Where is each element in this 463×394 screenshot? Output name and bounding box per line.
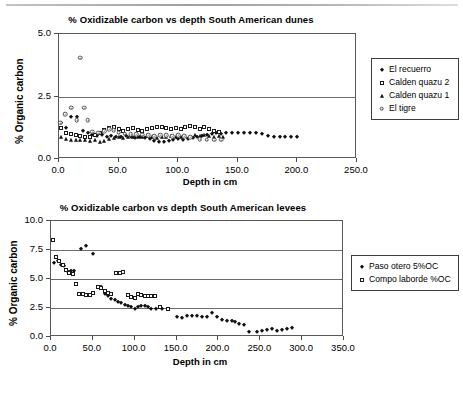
- data-point-calden-quazu-1: [59, 135, 63, 139]
- data-point-calden-quazu-2: [145, 127, 149, 131]
- data-point-paso-otero-5-oc: [184, 313, 189, 318]
- x-axis-tick-label: 250.0: [239, 342, 279, 353]
- legend-item-label: Calden quazu 1: [389, 90, 449, 101]
- data-point-calden-quazu-2: [198, 127, 202, 131]
- data-point-el-recuerro: [235, 130, 240, 135]
- legend-item-label: Compo laborde %OC: [369, 274, 451, 285]
- x-axis-tick: [259, 336, 260, 340]
- y-axis-tick-label: 7.5: [9, 243, 43, 254]
- data-point-calden-quazu-2: [155, 125, 159, 129]
- data-point-el-tigre: [63, 112, 68, 117]
- data-point-calden-quazu-2: [64, 131, 68, 135]
- data-point-el-recuerro: [253, 130, 258, 135]
- data-point-calden-quazu-1: [93, 138, 97, 142]
- data-point-paso-otero-5-oc: [246, 329, 251, 334]
- chart-dunes-plot-area: [58, 33, 356, 158]
- legend-item-label: El recuerro: [389, 64, 431, 75]
- legend-item-el-tigre[interactable]: El tigre: [377, 102, 453, 115]
- y-axis-tick: [46, 307, 50, 308]
- x-axis-tick: [50, 336, 51, 340]
- data-point-el-tigre: [78, 55, 83, 60]
- data-point-paso-otero-5-oc: [290, 326, 295, 331]
- chart-levees: % Oxidizable carbon vs depth South Ameri…: [0, 198, 463, 394]
- data-point-el-recuerro: [247, 130, 252, 135]
- data-point-calden-quazu-1: [88, 139, 92, 143]
- chart-dunes-y-axis-label: % Organic carbon: [14, 58, 25, 144]
- data-point-calden-quazu-1: [102, 139, 106, 143]
- data-point-el-tigre: [90, 129, 95, 134]
- y-axis-tick-label: 10.0: [9, 214, 43, 225]
- x-axis-tick-label: 150.0: [156, 342, 196, 353]
- square-marker-icon: [377, 77, 386, 88]
- data-point-marker: [379, 106, 384, 111]
- legend-item-el-recuerro[interactable]: El recuerro: [377, 63, 453, 76]
- data-point-el-tigre: [75, 118, 80, 123]
- data-point-paso-otero-5-oc: [214, 315, 219, 320]
- data-point-compo-laborde-oc: [71, 272, 75, 276]
- data-point-calden-quazu-2: [131, 126, 135, 130]
- data-point-el-tigre: [219, 137, 224, 142]
- gridline-horizontal: [51, 250, 342, 251]
- data-point-paso-otero-5-oc: [194, 313, 199, 318]
- data-point-compo-laborde-oc: [61, 263, 65, 267]
- data-point-el-tigre: [128, 132, 133, 137]
- x-axis-tick-label: 0.0: [30, 342, 70, 353]
- data-point-paso-otero-5-oc: [224, 318, 229, 323]
- data-point-el-tigre: [158, 133, 163, 138]
- data-point-el-tigre: [182, 134, 187, 139]
- data-point-calden-quazu-2: [150, 126, 154, 130]
- legend-item-calden-quazu-2[interactable]: Calden quazu 2: [377, 76, 453, 89]
- triangle-marker-icon: [377, 90, 386, 101]
- x-axis-tick-label: 0.0: [38, 164, 78, 175]
- data-point-el-recuerro: [289, 135, 294, 140]
- data-point-compo-laborde-oc: [166, 307, 170, 311]
- data-point-paso-otero-5-oc: [174, 314, 179, 319]
- legend-item-paso-otero-5-oc[interactable]: Paso otero 5%OC: [357, 260, 453, 273]
- legend-item-calden-quazu-1[interactable]: Calden quazu 1: [377, 89, 453, 102]
- data-point-calden-quazu-1: [98, 139, 102, 143]
- data-point-calden-quazu-1: [112, 136, 116, 140]
- x-axis-tick: [343, 336, 344, 340]
- x-axis-tick-label: 250.0: [336, 164, 376, 175]
- data-point-paso-otero-5-oc: [199, 314, 204, 319]
- data-point-paso-otero-5-oc: [241, 323, 246, 328]
- data-point-calden-quazu-1: [107, 137, 111, 141]
- x-axis-tick: [134, 336, 135, 340]
- data-point-paso-otero-5-oc: [179, 315, 184, 320]
- data-point-marker: [359, 264, 364, 269]
- y-axis-tick-label: 5.0: [17, 27, 51, 38]
- data-point-el-tigre: [122, 131, 127, 136]
- diamond-marker-icon: [377, 64, 386, 75]
- data-point-calden-quazu-1: [64, 137, 68, 141]
- data-point-el-tigre: [188, 135, 193, 140]
- data-point-compo-laborde-oc: [133, 296, 137, 300]
- chart-dunes-legend: El recuerroCalden quazu 2Calden quazu 1E…: [371, 58, 459, 120]
- data-point-paso-otero-5-oc: [209, 310, 214, 315]
- data-point-el-recuerro: [69, 114, 74, 119]
- data-point-el-recuerro: [157, 140, 162, 145]
- data-point-paso-otero-5-oc: [219, 317, 224, 322]
- x-axis-tick: [118, 158, 119, 162]
- data-point-el-tigre: [164, 133, 169, 138]
- data-point-paso-otero-5-oc: [189, 313, 194, 318]
- data-point-el-recuerro: [64, 125, 69, 130]
- data-point-el-recuerro: [277, 135, 282, 140]
- data-point-el-recuerro: [283, 135, 288, 140]
- y-axis-tick-label: 2.5: [9, 301, 43, 312]
- data-point-el-recuerro: [259, 131, 264, 136]
- data-point-el-tigre: [85, 118, 90, 123]
- chart-levees-x-axis-label: Depth in cm: [120, 356, 280, 367]
- data-point-calden-quazu-2: [188, 124, 192, 128]
- legend-item-compo-laborde-oc[interactable]: Compo laborde %OC: [357, 273, 453, 286]
- x-axis-tick: [356, 158, 357, 162]
- data-point-calden-quazu-2: [174, 126, 178, 130]
- data-point-paso-otero-5-oc: [84, 244, 89, 249]
- square-marker-icon: [357, 274, 366, 285]
- scan-artifact-line: [6, 4, 458, 6]
- x-axis-tick: [92, 336, 93, 340]
- x-axis-tick-label: 350.0: [323, 342, 363, 353]
- data-point-el-recuerro: [295, 134, 300, 139]
- data-point-el-tigre: [140, 132, 145, 137]
- y-axis-tick-label: 5.0: [9, 272, 43, 283]
- gridline-horizontal: [51, 308, 342, 309]
